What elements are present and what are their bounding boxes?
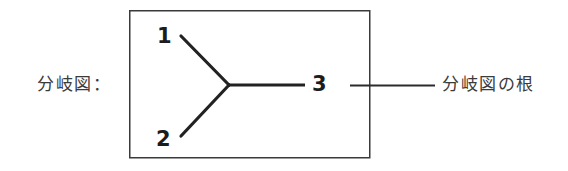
branch-to-taxon-1 — [181, 36, 229, 85]
cladogram-figure: 分岐図： 1 2 3 分岐図の根 — [0, 0, 568, 171]
figure-caption-right: 分岐図の根 — [442, 76, 535, 93]
branch-to-taxon-2 — [181, 85, 229, 136]
taxon-label-3: 3 — [312, 74, 327, 95]
taxon-label-1: 1 — [157, 26, 172, 47]
taxon-label-2: 2 — [156, 129, 171, 150]
